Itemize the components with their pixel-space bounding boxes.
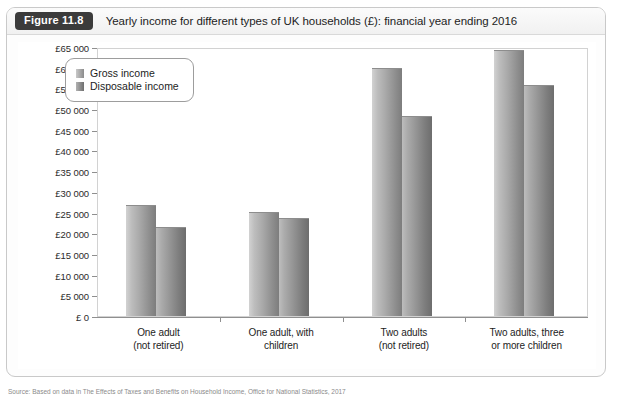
y-tick-label: £10 000 xyxy=(15,270,89,281)
x-axis-category-label: Two adults (not retired) xyxy=(343,326,466,352)
x-tick-mark xyxy=(465,317,466,322)
legend-label: Gross income xyxy=(90,67,155,79)
legend-swatch-icon xyxy=(76,82,84,91)
y-tick-label: £5 000 xyxy=(15,291,89,302)
x-axis-category-label: Two adults, three or more children xyxy=(465,326,588,352)
bar-group xyxy=(494,48,554,316)
bar-group xyxy=(249,48,309,316)
figure-header: Figure 11.8 Yearly income for different … xyxy=(7,8,605,35)
y-tick-label: £25 000 xyxy=(15,208,89,219)
y-tick-label: £65 000 xyxy=(15,43,89,54)
y-tick-label: £ 0 xyxy=(15,312,89,323)
figure-caption: Yearly income for different types of UK … xyxy=(106,15,517,27)
y-tick-label: £20 000 xyxy=(15,229,89,240)
y-tick-label: £50 000 xyxy=(15,105,89,116)
chart-area: £65 000£60 000£55 000£50 000£45 000£40 0… xyxy=(18,42,596,369)
bar-disposable-income xyxy=(524,85,554,316)
bar-group xyxy=(372,48,432,316)
x-tick-mark xyxy=(343,317,344,322)
bar-disposable-income xyxy=(156,227,186,316)
x-tick-mark xyxy=(220,317,221,322)
y-tick-label: £45 000 xyxy=(15,125,89,136)
bar-gross-income xyxy=(494,50,524,316)
legend-swatch-icon xyxy=(76,69,84,78)
x-axis-category-label: One adult (not retired) xyxy=(97,326,220,352)
bar-gross-income xyxy=(249,212,279,316)
y-tick-label: £30 000 xyxy=(15,187,89,198)
figure-panel: Figure 11.8 Yearly income for different … xyxy=(6,7,606,377)
y-tick-label: £35 000 xyxy=(15,167,89,178)
figure-number-badge: Figure 11.8 xyxy=(15,12,93,30)
chart-legend: Gross income Disposable income xyxy=(65,58,194,102)
legend-item-disposable-income: Disposable income xyxy=(76,80,179,92)
legend-label: Disposable income xyxy=(90,80,179,92)
bar-gross-income xyxy=(372,68,402,316)
y-tick-label: £40 000 xyxy=(15,146,89,157)
bar-disposable-income xyxy=(402,116,432,316)
x-axis-category-label: One adult, with children xyxy=(220,326,343,352)
y-tick-label: £15 000 xyxy=(15,249,89,260)
y-tick-mark xyxy=(92,317,97,318)
source-note: Source: Based on data in The Effects of … xyxy=(8,388,608,397)
bar-disposable-income xyxy=(279,218,309,316)
legend-item-gross-income: Gross income xyxy=(76,67,179,79)
bar-gross-income xyxy=(126,205,156,316)
